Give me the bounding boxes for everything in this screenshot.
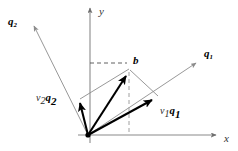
q2-label: q2: [8, 16, 17, 27]
vector-decomposition-figure: y x q2 q1 b v2q2 v1q1: [0, 0, 238, 151]
origin-dot: [85, 132, 90, 137]
v2q2-component-arrow: [80, 103, 88, 135]
v1q1-component-arrow: [88, 100, 152, 135]
parallelogram-edge-right: [130, 70, 158, 96]
v2q2-label: v2q2: [36, 92, 56, 103]
y-axis-label: y: [99, 6, 104, 17]
q2-label-subscript: 2: [14, 21, 17, 28]
q1-ray-line: [88, 63, 196, 135]
q1-label-text: q: [204, 47, 210, 59]
b-label: b: [133, 55, 139, 66]
v1q1-vector-subscript: 1: [175, 108, 181, 120]
v1q1-label: v1q1: [160, 105, 180, 116]
v1q1-scalar-subscript: 1: [164, 108, 169, 119]
q2-label-text: q: [8, 15, 14, 27]
v2q2-vector-subscript: 2: [51, 95, 57, 107]
q2-ray-line: [34, 26, 88, 135]
q1-label: q1: [204, 48, 213, 59]
v2q2-scalar-subscript: 2: [40, 95, 45, 106]
b-resultant-arrow: [88, 76, 126, 135]
x-axis-label: x: [224, 133, 229, 144]
q1-label-subscript: 1: [210, 53, 213, 60]
vector-diagram-canvas: [0, 0, 238, 151]
